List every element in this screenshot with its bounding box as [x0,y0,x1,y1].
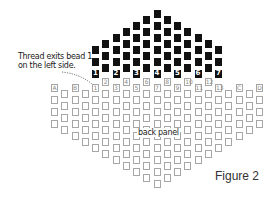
bead-label: 4 [124,79,129,85]
white-bead [113,132,120,140]
black-bead [205,40,212,48]
white-bead [205,138,212,146]
black-bead [174,22,181,30]
black-bead [143,40,150,48]
bead-label: 2 [113,70,120,78]
white-bead [215,144,222,152]
annotation-line-2: on the left side. [18,61,92,70]
black-bead [92,58,99,66]
black-bead [133,22,140,30]
black-bead [164,28,171,36]
black-bead-1: 1 [92,70,99,78]
white-bead [174,96,181,104]
white-bead [236,96,243,104]
white-bead [164,162,171,170]
white-bead [123,150,130,158]
black-bead [133,46,140,54]
white-bead [72,120,79,128]
white-bead [82,126,89,134]
bead-label: 7 [215,70,222,78]
white-bead [256,108,263,116]
white-bead [184,138,191,146]
white-bead [143,102,150,110]
figure-caption: Figure 2 [215,169,259,183]
white-bead [256,96,263,104]
white-bead [184,150,191,158]
white-bead [113,144,120,152]
white-bead [256,120,263,128]
bead-label: 7 [155,85,160,91]
white-bead [195,144,202,152]
black-bead [123,52,130,60]
white-bead [92,132,99,140]
white-bead [72,108,79,116]
white-bead [102,90,109,98]
white-bead [174,144,181,152]
white-bead [246,90,253,98]
white-bead [205,150,212,158]
bead-label: 10 [185,79,190,85]
white-bead [82,138,89,146]
black-bead [123,40,130,48]
black-bead-5: 5 [174,70,181,78]
bead-label: 2 [103,79,108,85]
white-bead [133,96,140,104]
white-bead [92,108,99,116]
annotation-line-1: Thread exits bead 1 [18,52,92,61]
white-bead [164,90,171,98]
bead-label: 9 [175,85,180,91]
white-bead [246,102,253,110]
white-bead [174,120,181,128]
white-bead [123,90,130,98]
black-bead [164,16,171,24]
bead-label: D [257,85,262,91]
white-bead [225,102,232,110]
black-bead [205,64,212,72]
black-bead [174,46,181,54]
black-bead [154,10,161,18]
white-bead-C: C [236,84,243,92]
white-bead [143,174,150,182]
white-bead [113,156,120,164]
white-bead [236,120,243,128]
black-bead [154,58,161,66]
white-bead-4: 4 [123,78,130,86]
white-bead [133,156,140,164]
white-bead [164,114,171,122]
white-bead [246,126,253,134]
white-bead [123,114,130,122]
black-bead [154,22,161,30]
white-bead [102,114,109,122]
white-bead [154,108,161,116]
white-bead [164,102,171,110]
black-bead [154,46,161,54]
white-bead [205,102,212,110]
bead-label: 3 [114,85,119,91]
white-bead [143,114,150,122]
bead-label: A [52,85,57,91]
white-bead [215,132,222,140]
white-bead-13: 13 [215,84,222,92]
bead-label: 8 [165,79,170,85]
black-bead [154,34,161,42]
black-bead [184,40,191,48]
black-bead-6: 6 [195,70,202,78]
black-bead [102,64,109,72]
thread-exit-annotation: Thread exits bead 1 on the left side. [18,52,92,70]
white-bead-A: A [51,84,58,92]
white-bead [61,102,68,110]
black-bead-4: 4 [154,70,161,78]
white-bead [143,90,150,98]
white-bead [205,126,212,134]
black-bead [174,34,181,42]
white-bead [123,102,130,110]
white-bead [195,108,202,116]
white-bead [164,150,171,158]
white-bead [143,138,150,146]
black-bead [184,28,191,36]
white-bead [92,96,99,104]
black-bead [184,52,191,60]
white-bead [123,126,130,134]
bead-label: 5 [134,85,139,91]
white-bead [61,90,68,98]
